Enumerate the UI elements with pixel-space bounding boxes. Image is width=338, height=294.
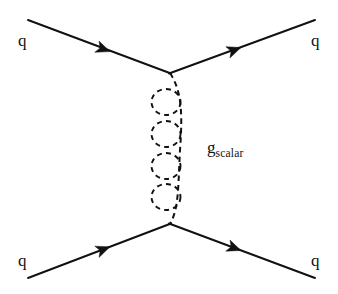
coupling-subscript-text: scalar: [216, 147, 244, 159]
label-outgoing-upper-quark: q: [311, 32, 320, 49]
outgoing-upper-quark-line: [169, 20, 315, 74]
propagator-loop-3: [152, 153, 181, 179]
coupling-base-text: g: [207, 138, 216, 157]
label-incoming-upper-quark: q: [18, 32, 27, 49]
label-coupling-constant: gscalar: [207, 139, 244, 156]
propagator-loop-2: [152, 121, 181, 147]
propagator-loop-1: [152, 89, 181, 115]
label-incoming-lower-quark: q: [18, 252, 27, 269]
label-outgoing-lower-quark: q: [311, 252, 320, 269]
arrow-right-icon-upper-right: [226, 42, 243, 58]
scalar-gluon-propagator-group: [152, 73, 182, 224]
outgoing-lower-quark-line: [169, 224, 315, 279]
arrow-right-icon-upper-left: [95, 41, 112, 57]
incoming-upper-quark-line: [28, 20, 171, 74]
fermion-lines-group: [28, 20, 315, 278]
arrow-right-icon-lower-right: [226, 240, 243, 256]
propagator-loop-4: [152, 184, 181, 210]
feynman-diagram-canvas: [0, 0, 338, 294]
arrow-right-icon-lower-left: [95, 241, 112, 257]
incoming-lower-quark-line: [28, 224, 171, 279]
feynman-diagram-figure: q q q q gscalar: [0, 0, 338, 294]
